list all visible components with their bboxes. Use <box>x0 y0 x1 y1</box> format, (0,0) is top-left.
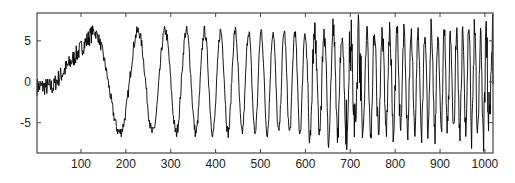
x-tick-label: 100 <box>71 157 91 171</box>
x-tick-label: 1000 <box>472 157 499 171</box>
x-tick-label: 400 <box>206 157 226 171</box>
plot-background <box>37 13 493 153</box>
y-tick-label: -5 <box>20 116 31 130</box>
x-tick-label: 500 <box>250 157 270 171</box>
x-tick-label: 900 <box>430 157 450 171</box>
line-chart: 1002003004005006007008009001000 50-5 <box>0 0 515 183</box>
y-tick-label: 5 <box>24 34 31 48</box>
x-tick-label: 600 <box>295 157 315 171</box>
x-tick-label: 300 <box>161 157 181 171</box>
x-tick-label: 700 <box>340 157 360 171</box>
y-tick-label: 0 <box>24 75 31 89</box>
x-tick-label: 200 <box>116 157 136 171</box>
x-tick-label: 800 <box>385 157 405 171</box>
